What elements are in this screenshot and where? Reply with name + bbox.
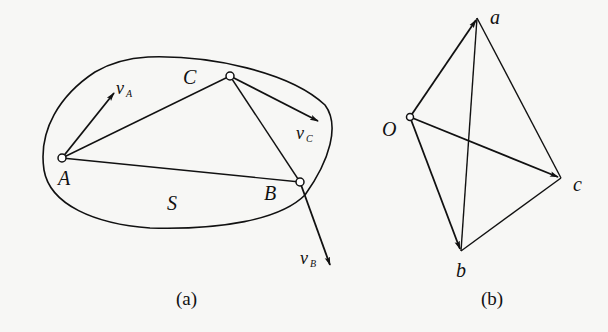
svg-text:A: A <box>125 88 133 99</box>
label-point-o: O <box>382 118 396 140</box>
svg-text:C: C <box>306 133 313 144</box>
vector-oa <box>410 20 476 117</box>
vector-oc <box>410 117 558 177</box>
figure-a: A C B S v A v C v B (a) <box>43 57 332 310</box>
segment-ab-b <box>461 18 477 251</box>
segment-ac-b <box>477 18 561 178</box>
svg-text:v: v <box>116 78 124 98</box>
label-region-s: S <box>167 192 177 214</box>
point-c-marker <box>226 72 234 80</box>
segment-cb <box>230 76 300 182</box>
label-vb: v B <box>300 248 316 269</box>
caption-b: (b) <box>481 288 503 310</box>
segment-ac <box>62 76 230 158</box>
segment-ab <box>62 158 300 182</box>
label-point-a-lower: a <box>490 6 500 28</box>
point-a-marker <box>58 154 66 162</box>
label-vc: v C <box>296 123 313 144</box>
caption-a: (a) <box>176 288 197 310</box>
segment-bc-b <box>461 178 561 251</box>
label-point-c: C <box>183 66 197 88</box>
velocity-diagram: A C B S v A v C v B (a) O a c b (b) <box>0 0 608 332</box>
label-point-c-lower: c <box>573 173 582 195</box>
velocity-arrow-va <box>62 93 114 158</box>
svg-text:v: v <box>300 248 308 268</box>
label-va: v A <box>116 78 133 99</box>
velocity-arrow-vc <box>230 76 318 121</box>
label-point-b-lower: b <box>456 259 466 281</box>
figure-b: O a c b (b) <box>382 6 582 310</box>
label-point-a: A <box>56 167 71 189</box>
svg-text:v: v <box>296 123 304 143</box>
label-point-b: B <box>264 182 276 204</box>
pole-o-marker <box>407 114 414 121</box>
svg-text:B: B <box>310 258 316 269</box>
point-b-marker <box>296 178 304 186</box>
vector-ob <box>410 117 460 249</box>
